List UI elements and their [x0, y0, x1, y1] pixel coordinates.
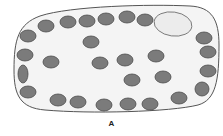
- granule: [18, 65, 28, 83]
- granule: [124, 74, 140, 86]
- granule: [92, 57, 108, 69]
- granule: [83, 36, 99, 48]
- granule: [142, 98, 158, 110]
- granule: [195, 82, 209, 96]
- granule: [200, 46, 216, 58]
- granule: [17, 49, 33, 61]
- granule: [20, 30, 36, 42]
- granule: [119, 11, 135, 23]
- granule: [38, 20, 54, 32]
- granule: [20, 86, 36, 98]
- granule: [79, 15, 95, 27]
- granule: [200, 65, 216, 77]
- granule: [60, 16, 76, 28]
- granule: [120, 98, 136, 110]
- granule: [137, 14, 153, 26]
- granule: [171, 92, 187, 104]
- figure-label: A: [0, 119, 223, 128]
- granule: [50, 94, 66, 106]
- cell-diagram: [0, 0, 223, 136]
- granule: [155, 71, 171, 83]
- granule: [148, 50, 164, 62]
- granule: [43, 56, 59, 68]
- granule: [117, 54, 133, 66]
- granule: [70, 96, 86, 108]
- granule: [96, 99, 112, 111]
- granule: [196, 32, 212, 44]
- granule: [98, 13, 114, 25]
